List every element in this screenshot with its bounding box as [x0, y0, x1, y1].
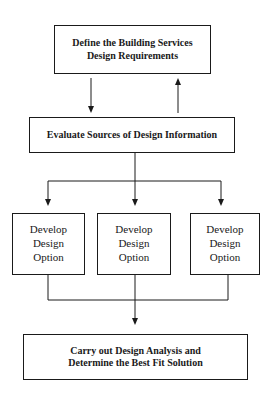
node-text-line: Define the Building Services	[72, 37, 192, 50]
node-develop-option-1: Develop Design Option	[12, 213, 85, 275]
arrowhead-down	[132, 199, 138, 206]
arrowhead-down	[45, 199, 51, 206]
node-text-line: Option	[115, 251, 152, 265]
node-develop-option-2: Develop Design Option	[97, 213, 171, 275]
node-define-requirements: Define the Building Services Design Requ…	[54, 25, 211, 74]
node-text-line: Design Requirements	[72, 50, 192, 63]
node-text-line: Develop	[206, 223, 243, 237]
node-text-line: Design	[206, 237, 243, 251]
node-text-line: Evaluate Sources of Design Information	[47, 129, 217, 142]
node-develop-option-3: Develop Design Option	[190, 213, 260, 275]
node-text-line: Determine the Best Fit Solution	[68, 357, 202, 370]
node-evaluate-sources: Evaluate Sources of Design Information	[29, 117, 235, 153]
arrowhead-up	[175, 78, 181, 85]
node-text-line: Option	[206, 251, 243, 265]
node-text-line: Carry out Design Analysis and	[68, 345, 202, 358]
node-text-line: Design	[115, 237, 152, 251]
arrowhead-down	[218, 199, 224, 206]
node-text-line: Option	[30, 251, 67, 265]
arrowhead-down	[132, 318, 138, 325]
node-text-line: Develop	[30, 223, 67, 237]
arrowhead-down	[88, 106, 94, 113]
node-design-analysis: Carry out Design Analysis and Determine …	[23, 334, 248, 380]
node-text-line: Develop	[115, 223, 152, 237]
node-text-line: Design	[30, 237, 67, 251]
